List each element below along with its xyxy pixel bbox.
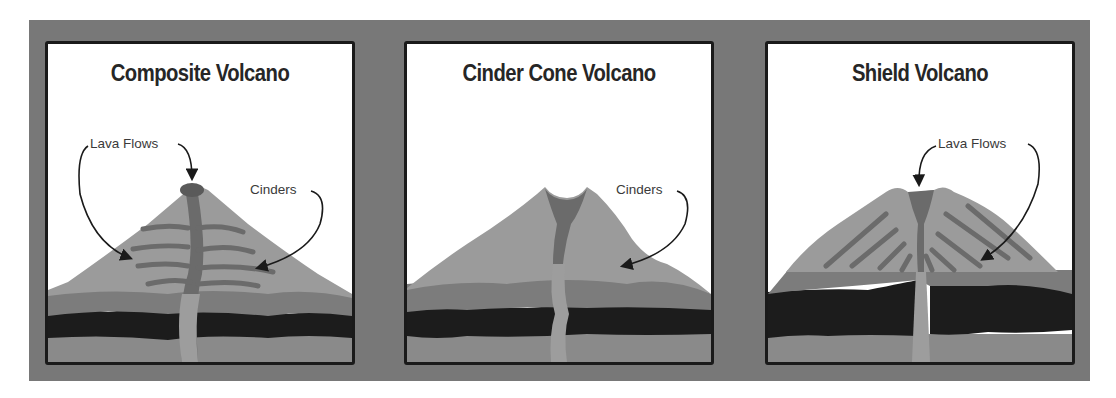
- panel-cinder-cone-volcano: Cinder Cone Volcano Cinders: [404, 41, 714, 365]
- label-cinders: Cinders: [616, 182, 663, 197]
- label-cinders: Cinders: [250, 182, 297, 197]
- arrow-lava-flows-summit: [178, 144, 192, 178]
- arrow-lava-flows-left: [79, 146, 130, 258]
- cinder-cone-illustration: Cinders: [407, 44, 711, 362]
- composite-volcano-illustration: Lava Flows Cinders: [48, 44, 352, 362]
- arrow-lava-flows-summit: [919, 146, 936, 184]
- label-lava-flows: Lava Flows: [938, 136, 1007, 151]
- summit-crater: [180, 183, 204, 197]
- panel-shield-volcano: Shield Volcano Lava Flows: [765, 41, 1075, 365]
- label-lava-flows: Lava Flows: [90, 136, 159, 151]
- diagram-frame: Composite Volcano: [29, 20, 1090, 381]
- panel-composite-volcano: Composite Volcano: [45, 41, 355, 365]
- bottom-rock-layer: [48, 334, 352, 362]
- dark-rock-layer: [48, 309, 352, 340]
- shield-volcano-illustration: Lava Flows: [768, 44, 1072, 362]
- dark-rock-layer-right: [930, 284, 1072, 335]
